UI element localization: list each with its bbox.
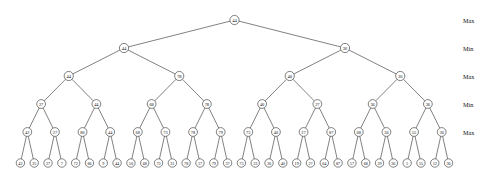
tree-node: 78 <box>182 159 190 167</box>
tree-edge <box>222 136 227 159</box>
tree-edge <box>132 136 137 159</box>
tree-edge <box>28 136 33 159</box>
node-value-label: 36 <box>446 161 450 166</box>
tree-edge <box>306 108 316 128</box>
node-value-label: 79 <box>212 161 216 166</box>
row-label-max-2: Max <box>463 73 475 80</box>
node-value-label: 78 <box>184 161 188 166</box>
node-value-label: 25 <box>32 161 36 166</box>
tree-edge <box>415 136 420 159</box>
tree-node: 36 <box>423 100 432 109</box>
tree-edge <box>242 136 247 159</box>
tree-edge <box>264 108 274 128</box>
node-value-label: 50 <box>129 161 133 166</box>
tree-row-labels: MaxMinMaxMinMax <box>463 17 475 136</box>
tree-edge <box>21 136 26 159</box>
tree-node: 27 <box>37 100 46 109</box>
tree-node: 73 <box>161 128 170 137</box>
tree-node: 30 <box>265 159 273 167</box>
node-value-label: 73 <box>156 161 160 166</box>
tree-edge <box>84 136 89 159</box>
tree-node: 78 <box>202 100 211 109</box>
tree-node: 72 <box>71 159 79 167</box>
tree-node: 55 <box>417 159 425 167</box>
tree-edge <box>250 108 260 128</box>
tree-node: 36 <box>340 43 349 52</box>
tree-node: 25 <box>30 159 38 167</box>
node-value-label: 17 <box>198 161 202 166</box>
tree-node: 87 <box>327 128 336 137</box>
tree-node: 44 <box>92 100 101 109</box>
tree-node: 42 <box>16 159 24 167</box>
tree-edge <box>319 108 329 128</box>
tree-edge <box>416 108 426 128</box>
tree-edge <box>195 108 205 128</box>
tree-edge <box>85 108 95 128</box>
tree-edge <box>43 108 53 128</box>
node-value-label: 42 <box>25 130 29 135</box>
tree-edge <box>360 136 365 159</box>
row-label-max-0: Max <box>463 17 475 24</box>
tree-node: 55 <box>410 128 419 137</box>
tree-edge <box>265 79 286 101</box>
tree-node: 7 <box>58 159 66 167</box>
tree-node: 68 <box>133 128 142 137</box>
node-value-label: 57 <box>350 161 354 166</box>
tree-node: 73 <box>154 159 162 167</box>
tree-node: 12 <box>431 159 439 167</box>
tree-node: 68 <box>362 159 370 167</box>
tree-edge <box>403 79 424 101</box>
tree-edge <box>408 136 413 159</box>
tree-node: 68 <box>141 159 149 167</box>
tree-node: 78 <box>189 128 198 137</box>
tree-edge <box>182 79 203 101</box>
node-value-label: 30 <box>267 161 271 166</box>
tree-node: 50 <box>127 159 135 167</box>
node-value-label: 68 <box>143 161 147 166</box>
tree-node: 36 <box>389 159 397 167</box>
tree-node: 29 <box>375 159 383 167</box>
node-value-label: 7 <box>61 161 63 166</box>
node-value-label: 31 <box>170 161 174 166</box>
node-value-label: 9 <box>102 161 104 166</box>
tree-edge <box>249 136 254 159</box>
tree-node: 73 <box>244 128 253 137</box>
node-value-label: 36 <box>343 46 348 51</box>
row-label-min-1: Min <box>463 45 473 52</box>
tree-edge <box>111 136 116 159</box>
tree-edge <box>154 108 164 128</box>
tree-node: 44 <box>230 15 239 24</box>
tree-edge <box>98 108 108 128</box>
row-label-min-3: Min <box>463 101 473 108</box>
tree-edge <box>294 50 341 74</box>
node-value-label: 42 <box>18 161 22 166</box>
tree-node: 36 <box>382 128 391 137</box>
node-value-label: 72 <box>74 161 78 166</box>
tree-edges <box>21 21 447 159</box>
tree-node: 40 <box>258 100 267 109</box>
tree-edge <box>215 136 220 159</box>
tree-node: 9 <box>99 159 107 167</box>
tree-node: 19 <box>292 159 300 167</box>
tree-diagram: 4444364478403627446878402736364227864468… <box>0 0 484 181</box>
tree-edge <box>56 136 61 159</box>
node-value-label: 37 <box>225 161 229 166</box>
tree-edge <box>166 136 171 159</box>
tree-edge <box>270 136 275 159</box>
tree-edge <box>140 108 150 128</box>
tree-node: 27 <box>313 100 322 109</box>
tree-node: 86 <box>78 128 87 137</box>
tree-edge <box>380 136 385 159</box>
tree-edge <box>44 79 65 101</box>
node-value-label: 73 <box>239 161 243 166</box>
tree-edge <box>277 136 282 159</box>
node-value-label: 5 <box>406 161 408 166</box>
tree-node: 78 <box>175 71 184 80</box>
tree-edge <box>387 136 392 159</box>
tree-node: 40 <box>272 128 281 137</box>
tree-node: 44 <box>113 159 121 167</box>
tree-edge <box>443 136 448 159</box>
tree-node: 36 <box>396 71 405 80</box>
tree-edge <box>155 79 176 101</box>
tree-edge <box>159 136 164 159</box>
